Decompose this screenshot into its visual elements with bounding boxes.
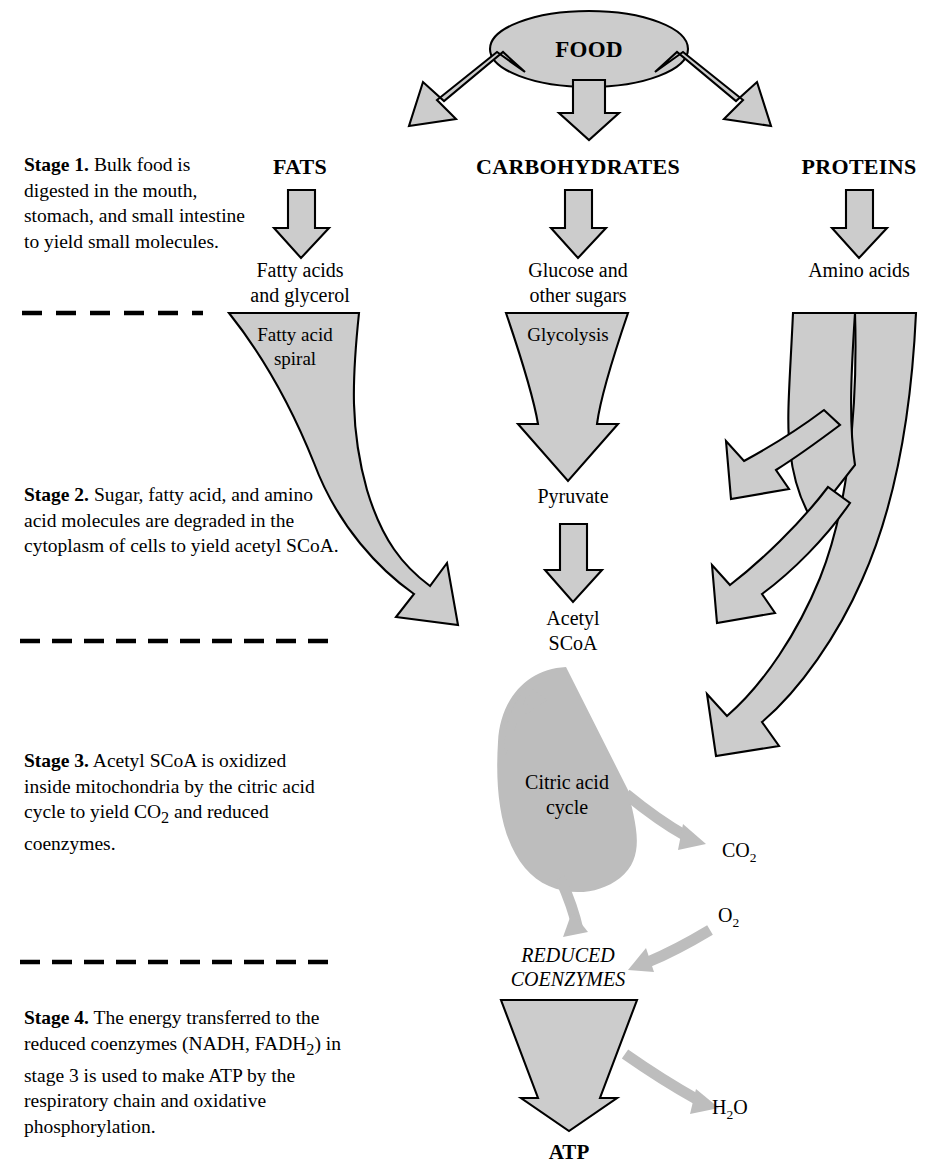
proteins-header: PROTEINS [802, 154, 917, 179]
co2-subscript: 2 [750, 850, 757, 865]
atp-label: ATP [549, 1140, 590, 1164]
co2-label: CO2 [722, 839, 757, 865]
stage-4-text: Stage 4. The energy transferred to the r… [24, 1005, 354, 1139]
proteins-digestion-arrow [832, 190, 887, 258]
coenzymes-to-atp-arrow [501, 1000, 637, 1131]
co2-base: CO [722, 839, 750, 861]
carbohydrates-header: CARBOHYDRATES [476, 154, 680, 179]
atp-to-h2o-arrow [625, 1054, 719, 1114]
stage-3-label: Stage 3. [24, 750, 89, 771]
food-label: FOOD [555, 37, 623, 62]
h2o-base-b: O [733, 1096, 747, 1118]
h2o-base-a: H [712, 1096, 726, 1118]
citric-acid-cycle-ring [497, 667, 706, 937]
fatty-acid-spiral-arrow [229, 313, 458, 625]
stage-1-text: Stage 1. Bulk food is digested in the mo… [24, 152, 254, 254]
fats-header: FATS [273, 154, 327, 179]
acetyl-scoa-label-line2: SCoA [549, 632, 598, 654]
stage-3-text: Stage 3. Acetyl SCoA is oxidized inside … [24, 748, 324, 857]
fatty-acids-label-line2: and glycerol [250, 284, 350, 307]
amino-acids-label: Amino acids [808, 259, 910, 281]
pyruvate-label: Pyruvate [537, 485, 608, 508]
fats-digestion-arrow [274, 190, 329, 258]
reduced-coenzymes-label-line2: COENZYMES [511, 968, 625, 990]
citric-acid-cycle-label-line2: cycle [546, 796, 588, 819]
glycolysis-label: Glycolysis [527, 324, 608, 345]
fatty-acid-spiral-label-line1: Fatty acid [257, 324, 333, 345]
glucose-label-line2: other sugars [529, 284, 626, 307]
stage-2-text: Stage 2. Sugar, fatty acid, and amino ac… [24, 482, 344, 559]
carbohydrates-digestion-arrow [551, 190, 606, 258]
fatty-acids-label-line1: Fatty acids [256, 259, 343, 282]
stage-4-label: Stage 4. [24, 1007, 89, 1028]
o2-to-coenzymes-arrow [628, 930, 710, 972]
stage-1-label: Stage 1. [24, 154, 89, 175]
fatty-acid-spiral-label-line2: spiral [274, 348, 316, 369]
food-to-carbohydrates-arrow [559, 80, 619, 140]
o2-label: O2 [718, 904, 739, 930]
acetyl-scoa-label-line1: Acetyl [546, 607, 600, 630]
citric-acid-cycle-label-line1: Citric acid [525, 771, 609, 793]
h2o-subscript: 2 [726, 1107, 733, 1122]
o2-base: O [718, 904, 732, 926]
stage-2-label: Stage 2. [24, 484, 89, 505]
glucose-label-line1: Glucose and [528, 259, 627, 281]
pyruvate-to-acetyl-arrow [545, 524, 602, 602]
h2o-label: H2O [712, 1096, 748, 1122]
reduced-coenzymes-label-line1: REDUCED [520, 944, 615, 966]
o2-subscript: 2 [732, 915, 739, 930]
